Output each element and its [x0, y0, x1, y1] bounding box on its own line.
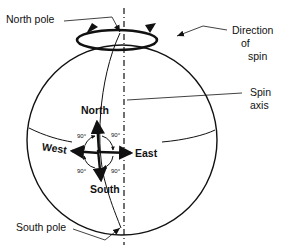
direction-of-spin-label-3: spin — [248, 50, 267, 62]
spin-axis-label-1: Spin — [250, 86, 271, 98]
direction-of-spin-leader — [177, 26, 227, 36]
angle-arc-sw — [84, 156, 95, 168]
angle-label-se: 90° — [111, 168, 121, 174]
angle-label-nw: 90° — [77, 133, 87, 139]
angle-label-sw: 90° — [77, 168, 87, 174]
earth-spin-diagram: North pole Direction of spin Spin axis S… — [0, 0, 281, 249]
south-pole-label: South pole — [16, 221, 66, 233]
west-arrow — [72, 151, 99, 153]
globe-outline — [27, 45, 217, 235]
east-arrow — [98, 152, 131, 153]
spin-axis-leader — [127, 93, 242, 100]
south-pole-leader — [73, 228, 120, 240]
angle-arc-se — [103, 156, 113, 168]
compass: 90° 90° 90° 90° North South East West — [41, 104, 157, 195]
east-label: East — [135, 147, 158, 159]
north-arrow — [97, 122, 99, 152]
direction-of-spin-label-2: of — [241, 37, 250, 49]
meridian-line — [100, 33, 121, 228]
spin-axis-label-2: axis — [250, 99, 269, 111]
equator-line — [29, 128, 72, 142]
spin-arrow-right — [145, 23, 156, 33]
south-label: South — [90, 183, 120, 195]
west-label: West — [41, 140, 68, 155]
north-label: North — [81, 104, 109, 116]
north-pole-label: North pole — [6, 13, 55, 25]
direction-of-spin-label-1: Direction — [232, 24, 274, 36]
equator-line-east — [162, 130, 215, 142]
angle-label-ne: 90° — [111, 132, 121, 138]
angle-arc-ne — [102, 136, 113, 150]
